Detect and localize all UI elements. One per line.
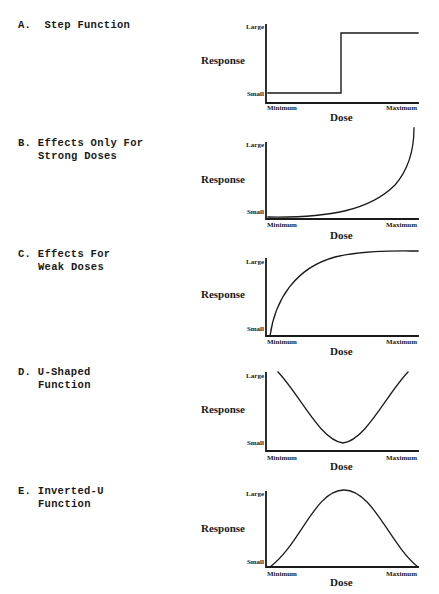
- panel-e-plot: [266, 490, 418, 567]
- panel-d-plot: [266, 372, 418, 451]
- panel-c-plot: [266, 251, 418, 336]
- panel-b-plot: [266, 128, 418, 219]
- dose-response-plots: [0, 0, 439, 594]
- panel-a-plot: [266, 25, 418, 103]
